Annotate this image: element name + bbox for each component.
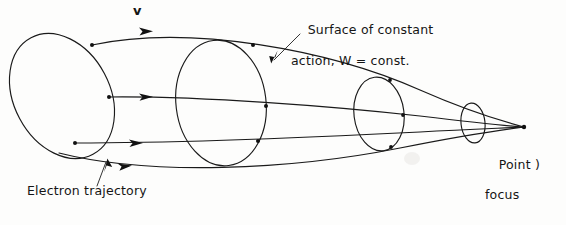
intersection-dot (73, 141, 77, 145)
arrowhead-lower-mid (129, 140, 143, 147)
intersection-dot (401, 113, 405, 117)
intersection-dot (251, 43, 255, 47)
point-focus-line-1: Point ) (499, 157, 540, 172)
intersection-dot (256, 139, 260, 143)
intersection-dot (389, 145, 393, 149)
velocity-vector-label: v (133, 3, 142, 18)
leader-arrowhead-surface (269, 50, 277, 63)
scan-smudge (404, 152, 420, 165)
point-focus-line-2: focus (482, 187, 540, 202)
wavefront-ellipse-2 (169, 35, 274, 171)
wavefront-ellipse-1 (0, 15, 135, 177)
surface-label-line-2: action, W = const. (291, 53, 433, 69)
trajectory-ray-lower-mid (75, 127, 524, 143)
surface-of-constant-action-label: Surface of constant action, W = const. (291, 6, 433, 99)
figure-container: v Surface of constant action, W = const.… (0, 0, 566, 225)
arrowhead-group (118, 28, 154, 171)
intersection-dot (90, 43, 94, 47)
focus-point-dot (522, 125, 526, 129)
trajectory-ray-bottom (59, 127, 524, 168)
point-focus-label: Point ) focus (482, 142, 540, 225)
intersection-dot (264, 104, 268, 108)
intersection-dot (107, 95, 111, 99)
surface-label-line-1: Surface of constant (308, 22, 434, 37)
arrowhead-top (139, 28, 153, 36)
electron-trajectory-label: Electron trajectory (27, 183, 147, 198)
